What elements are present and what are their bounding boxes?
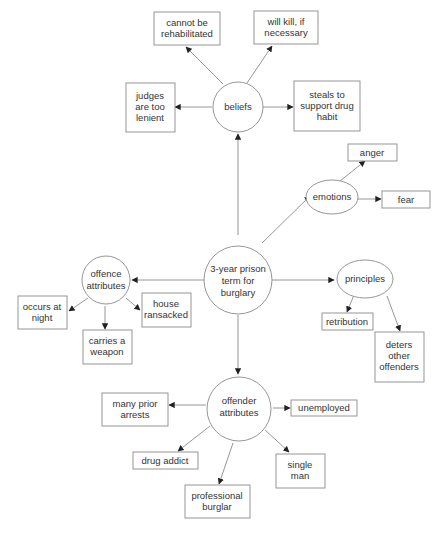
leaf-many-prior-arrests: many prior arrests [102,393,168,426]
leaf-single-line-1: single [288,459,313,470]
edge-offence-night [69,298,88,311]
edge-beliefs-rehab [186,47,223,84]
leaf-deters-line-1: deters [386,339,413,350]
node-center-line-2: term for [222,275,255,286]
node-principles-label: principles [345,273,385,284]
node-offender-attributes: offender attributes [207,377,271,441]
leaf-judges-line-2: are too [135,101,165,112]
edge-emotions-anger [340,161,365,181]
node-offender-line-1: offender [222,395,257,406]
leaf-professional-burglar: professional burglar [185,485,250,518]
node-center-line-1: 3-year prison [210,263,265,274]
edge-offender-single [265,430,289,452]
leaf-deters-offenders: deters other offenders [375,332,424,382]
leaf-unemployed: unemployed [291,400,357,416]
edge-offender-addict [178,426,210,451]
leaf-rehab-line-1: cannot be [166,17,208,28]
leaf-fear: fear [382,191,430,208]
leaf-drug-addict: drug addict [133,452,198,469]
node-offender-line-2: attributes [219,407,258,418]
leaf-anger-label: anger [360,147,384,158]
leaf-rehab-line-2: rehabilitated [161,28,213,39]
leaf-weapon-line-1: carries a [89,335,126,346]
node-emotions-label: emotions [313,191,352,202]
leaf-night-line-1: occurs at [23,301,62,312]
leaf-deters-line-2: other [388,350,410,361]
leaf-cannot-be-rehabilitated: cannot be rehabilitated [154,12,220,45]
leaf-fear-label: fear [398,194,414,205]
edge-beliefs-kill [247,46,272,83]
leaf-weapon-line-2: weapon [89,346,123,357]
leaf-anger: anger [348,144,397,161]
leaf-arrests-line-2: arrests [120,409,149,420]
leaf-professional-line-1: professional [191,490,242,501]
leaf-steals-line-2: support drug [300,100,353,111]
node-beliefs: beliefs [213,82,263,132]
node-principles: principles [337,260,393,298]
edge-principles-retribution [347,295,354,312]
leaf-night-line-2: night [32,312,53,323]
leaf-deters-line-3: offenders [379,361,419,372]
leaf-judges-line-3: lenient [136,112,164,123]
leaf-kill-line-2: necessary [264,27,308,38]
leaf-steals-line-3: habit [317,111,338,122]
edge-offence-ransacked [126,298,140,310]
leaf-addict-label: drug addict [141,455,188,466]
leaf-unemployed-label: unemployed [298,402,350,413]
leaf-steals-drug-habit: steals to support drug habit [294,81,360,131]
leaf-professional-line-2: burglar [202,501,232,512]
edge-principles-deters [387,296,400,331]
leaf-judges-lenient: judges are too lenient [126,83,175,132]
leaf-ransacked-line-2: ransacked [144,309,188,320]
edge-offender-professional [219,443,233,484]
node-beliefs-label: beliefs [224,101,252,112]
node-emotions: emotions [306,180,358,214]
leaf-retribution: retribution [322,313,373,330]
leaf-judges-line-1: judges [135,90,164,101]
node-offence-line-1: offence [91,268,122,279]
leaf-arrests-line-1: many prior [113,398,158,409]
concept-map-diagram: 3-year prison term for burglary beliefs … [0,0,446,534]
leaf-occurs-at-night: occurs at night [18,296,67,329]
leaf-house-ransacked: house ransacked [142,293,191,327]
leaf-will-kill: will kill, if necessary [254,11,318,44]
node-offence-attributes: offence attributes [82,256,130,304]
node-center-line-3: burglary [221,287,256,298]
node-center: 3-year prison term for burglary [204,246,272,314]
leaf-carries-weapon: carries a weapon [83,330,132,364]
leaf-steals-line-1: steals to [309,89,344,100]
leaf-single-line-2: man [291,470,309,481]
leaf-retribution-label: retribution [326,316,368,327]
leaf-ransacked-line-1: house [153,298,179,309]
leaf-kill-line-1: will kill, if [267,16,305,27]
leaf-single-man: single man [276,454,325,488]
edge-center-emotions [262,196,310,243]
node-offence-line-2: attributes [86,280,125,291]
